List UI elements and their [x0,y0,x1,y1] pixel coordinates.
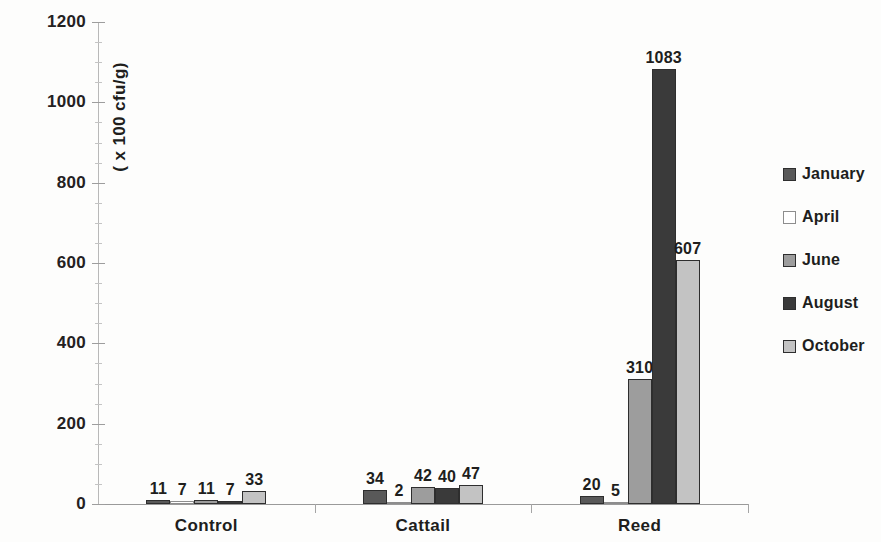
bar-value-label: 20 [583,476,601,494]
bar-value-label: 5 [611,482,620,500]
y-axis-minor-tick [95,484,102,485]
bar-value-label: 1083 [645,49,681,67]
x-axis-separator-tick [531,504,532,513]
y-axis-major-tick [92,183,105,184]
legend-item[interactable]: October [783,335,865,357]
legend-item-label: October [802,337,865,355]
y-axis-minor-tick [95,363,102,364]
bar[interactable]: 47 [459,485,483,504]
y-axis-title: ( x 100 cfu/g) [110,0,130,237]
legend-item-label: June [802,251,840,269]
legend-swatch-october-icon [783,340,796,353]
legend-item-label: August [802,294,858,312]
y-axis-major-tick [92,343,105,344]
plot-area: 120010008006004002000 117117333424240472… [98,22,748,504]
y-axis-major-tick [92,424,105,425]
bar[interactable]: 11 [146,500,170,504]
category-label: Cattail [396,516,451,536]
bar-value-label: 11 [198,480,215,498]
bar[interactable]: 1083 [652,69,676,504]
y-axis-major-tick [92,102,105,103]
bar-value-label: 2 [394,482,403,500]
y-axis-minor-tick [95,404,102,405]
y-axis-minor-tick [95,62,102,63]
bar-value-label: 607 [674,240,701,258]
x-axis-end-tick [748,504,749,513]
bar[interactable]: 607 [676,260,700,504]
y-axis-tick-label: 800 [57,173,86,193]
bar-value-label: 42 [414,467,432,485]
legend-item-label: April [802,208,839,226]
y-axis-minor-tick [95,243,102,244]
y-axis-minor-tick [95,42,102,43]
legend-item[interactable]: April [783,206,865,228]
y-axis-minor-tick [95,444,102,445]
bar-group: 2053101083607 [580,22,700,504]
category-label: Control [175,516,238,536]
y-axis-tick-label: 600 [57,253,86,273]
bar-value-label: 34 [366,470,384,488]
legend-swatch-august-icon [783,297,796,310]
y-axis-major-tick [92,22,105,23]
chart-figure: 120010008006004002000 117117333424240472… [0,0,881,542]
bar[interactable]: 34 [363,490,387,504]
y-axis-minor-tick [95,464,102,465]
bar[interactable]: 7 [170,501,194,504]
bar-value-label: 7 [178,481,187,499]
legend-item[interactable]: June [783,249,865,271]
legend-item[interactable]: January [783,163,865,185]
bar[interactable]: 310 [628,379,652,504]
y-axis-minor-tick [95,163,102,164]
bar-value-label: 7 [226,481,235,499]
y-axis-minor-tick [95,303,102,304]
bar-value-label: 40 [438,468,456,486]
y-axis-minor-tick [95,203,102,204]
bar[interactable]: 20 [580,496,604,504]
y-axis-tick-label: 400 [57,333,86,353]
bar[interactable]: 2 [387,502,411,504]
bar-value-label: 47 [462,465,480,483]
legend-swatch-april-icon [783,211,796,224]
y-axis-major-tick [92,263,105,264]
bar-value-label: 11 [150,480,167,498]
bar-value-label: 33 [245,471,263,489]
bar-group: 342424047 [363,22,483,504]
y-axis-minor-tick [95,283,102,284]
y-axis-title-wrapper: ( x 100 cfu/g) [112,22,113,504]
category-label: Reed [618,516,661,536]
y-axis-minor-tick [95,323,102,324]
y-axis-tick-label: 1000 [47,92,86,112]
bar[interactable]: 42 [411,487,435,504]
y-axis-minor-tick [95,143,102,144]
y-axis-minor-tick [95,223,102,224]
y-axis-tick-label: 0 [76,494,86,514]
bar-value-label: 310 [626,359,653,377]
bar-group: 11711733 [146,22,266,504]
y-axis-tick-label: 1200 [47,12,86,32]
bar[interactable]: 40 [435,488,459,504]
bar[interactable]: 5 [604,502,628,504]
bar[interactable]: 33 [242,491,266,504]
x-axis-line [98,504,748,505]
legend-swatch-june-icon [783,254,796,267]
x-axis-separator-tick [315,504,316,513]
legend-item[interactable]: August [783,292,865,314]
y-axis-minor-tick [95,82,102,83]
y-axis-minor-tick [95,384,102,385]
bar[interactable]: 11 [194,500,218,504]
y-axis-minor-tick [95,122,102,123]
bar[interactable]: 7 [218,501,242,504]
legend-swatch-january-icon [783,168,796,181]
y-axis-tick-label: 200 [57,414,86,434]
y-axis-major-tick [92,504,105,505]
chart-legend: JanuaryAprilJuneAugustOctober [783,163,865,378]
legend-item-label: January [802,165,865,183]
